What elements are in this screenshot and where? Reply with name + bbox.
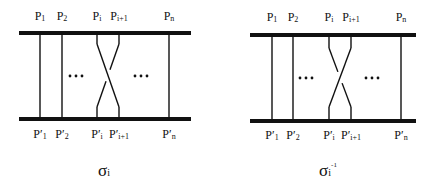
bottom-label: P′1 bbox=[265, 128, 278, 142]
ellipsis-dots bbox=[134, 75, 149, 78]
top-label: Pi bbox=[93, 9, 103, 23]
top-label: Pi+1 bbox=[342, 10, 359, 24]
under-strand-lower bbox=[97, 81, 106, 107]
bottom-label: P′n bbox=[394, 128, 407, 142]
bottom-label: P′i+1 bbox=[341, 128, 361, 142]
caption: σi-1 bbox=[319, 161, 337, 180]
top-label: Pi+1 bbox=[110, 9, 127, 23]
caption: σi bbox=[98, 161, 110, 180]
top-label: P1 bbox=[267, 10, 278, 24]
under-strand-upper bbox=[110, 44, 119, 70]
bottom-label: P′n bbox=[162, 127, 175, 141]
diagram-sigma-i-inverse: P1P2PiPi+1PnP′1P′2P′iP′i+1P′nσi-1 bbox=[250, 10, 416, 180]
bottom-label: P′i+1 bbox=[109, 127, 129, 141]
bottom-label: P′2 bbox=[55, 127, 68, 141]
bottom-label: P′i bbox=[323, 128, 335, 142]
diagram-sigma-i: P1P2PiPi+1PnP′1P′2P′iP′i+1P′nσi bbox=[19, 9, 191, 180]
bottom-label: P′i bbox=[91, 127, 103, 141]
top-label: Pn bbox=[164, 9, 175, 23]
under-strand-upper bbox=[329, 48, 338, 72]
braid-generators-figure: P1P2PiPi+1PnP′1P′2P′iP′i+1P′nσiP1P2PiPi+… bbox=[0, 0, 432, 188]
bottom-label: P′2 bbox=[286, 128, 299, 142]
top-label: Pi bbox=[325, 10, 335, 24]
bottom-label: P′1 bbox=[33, 127, 46, 141]
bottom-bar bbox=[250, 119, 416, 123]
top-label: P1 bbox=[35, 9, 46, 23]
top-bar bbox=[250, 33, 416, 37]
top-label: Pn bbox=[396, 10, 407, 24]
ellipsis-dots bbox=[69, 75, 84, 78]
under-strand-lower bbox=[342, 83, 351, 107]
ellipsis-dots bbox=[365, 77, 380, 80]
bottom-bar bbox=[19, 117, 191, 121]
ellipsis-dots bbox=[299, 77, 314, 80]
top-label: P2 bbox=[57, 9, 68, 23]
top-label: P2 bbox=[288, 10, 299, 24]
top-bar bbox=[19, 31, 191, 35]
